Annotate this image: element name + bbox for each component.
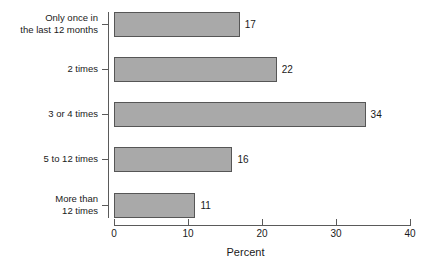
category-tick-1 [102,69,108,70]
value-tick-label-3: 30 [330,228,341,239]
category-label-0: Only once in the last 12 months [0,12,98,35]
category-tick-0 [102,24,108,25]
category-tick-4 [102,205,108,206]
bar-1 [114,57,277,82]
bar-2 [114,102,366,127]
value-axis-title-text: Percent [227,246,265,258]
bar-value-0: 17 [245,12,256,37]
value-tick-label-0: 0 [111,228,117,239]
value-tick-1 [188,219,189,225]
value-tick-0 [114,219,115,225]
bar-0 [114,12,240,37]
value-axis-line [114,225,411,226]
bar-value-1: 22 [282,57,293,82]
bar-value-3: 16 [237,147,248,172]
category-tick-3 [102,159,108,160]
category-label-2: 3 or 4 times [0,108,98,120]
value-tick-3 [336,219,337,225]
category-tick-2 [102,114,108,115]
value-tick-4 [410,219,411,225]
bar-value-2: 34 [371,102,382,127]
bar-value-4: 11 [200,193,210,218]
bar-chart: Only once in the last 12 months 2 times … [0,0,435,272]
value-axis-title: Percent [0,246,435,258]
category-label-1: 2 times [0,63,98,75]
value-tick-label-2: 20 [256,228,267,239]
category-label-4: More than 12 times [0,193,98,216]
bar-3 [114,147,232,172]
category-axis-line [108,12,109,218]
bar-4 [114,193,195,218]
value-tick-label-1: 10 [182,228,193,239]
category-label-3: 5 to 12 times [0,153,98,165]
value-tick-label-4: 40 [404,228,415,239]
value-tick-2 [262,219,263,225]
